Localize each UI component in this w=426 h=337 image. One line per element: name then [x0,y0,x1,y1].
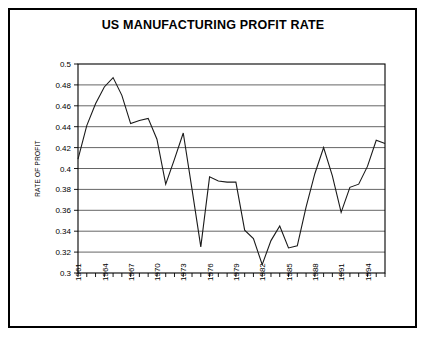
y-axis-tick-label: 0.36 [55,206,71,215]
x-axis-tick-label: 1979 [232,263,241,281]
x-axis-tick-label: 1988 [311,263,320,281]
x-axis-tick-label: 1982 [258,263,267,281]
x-axis-tick-label: 1961 [74,263,83,281]
y-axis-tick-label: 0.34 [55,227,71,236]
x-axis-tick-labels: 1961196419671970197319761979198219851988… [74,263,372,281]
y-axis-ticks-group [74,64,78,273]
x-axis-tick-label: 1973 [179,263,188,281]
y-axis-tick-label: 0.44 [55,123,71,132]
y-axis-tick-labels: 0.30.320.340.360.380.40.420.440.460.480.… [55,60,71,278]
x-axis-tick-label: 1994 [364,263,373,281]
y-axis-tick-label: 0.4 [60,165,72,174]
x-axis-tick-label: 1985 [285,263,294,281]
y-axis-title: RATE OF PROFIT [34,140,41,197]
x-axis-tick-label: 1991 [337,263,346,281]
x-axis-tick-label: 1967 [127,263,136,281]
y-axis-tick-label: 0.48 [55,81,71,90]
y-axis-tick-label: 0.42 [55,144,71,153]
y-axis-tick-label: 0.46 [55,102,71,111]
gridlines-group [78,85,385,252]
y-axis-tick-label: 0.3 [60,269,72,278]
y-axis-tick-label: 0.5 [60,60,72,69]
x-axis-tick-label: 1964 [101,263,110,281]
x-axis-tick-label: 1976 [206,263,215,281]
x-axis-tick-label: 1970 [153,263,162,281]
y-axis-tick-label: 0.38 [55,185,71,194]
chart-plot-area: 0.30.320.340.360.380.40.420.440.460.480.… [0,0,426,337]
chart-svg: 0.30.320.340.360.380.40.420.440.460.480.… [0,0,426,337]
y-axis-tick-label: 0.32 [55,248,71,257]
